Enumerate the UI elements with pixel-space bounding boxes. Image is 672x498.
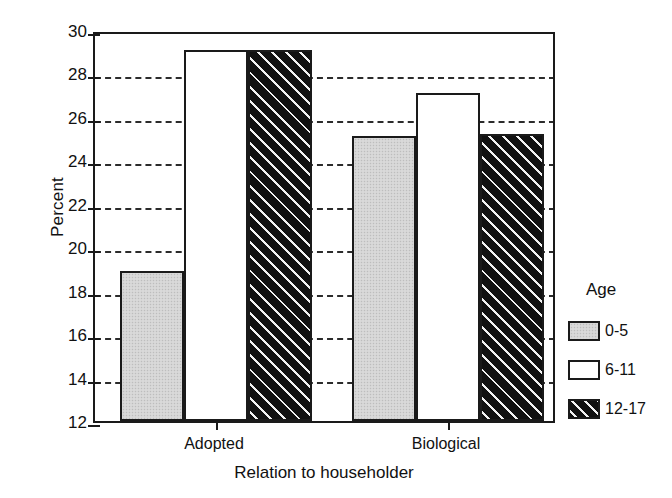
legend-label-0-5: 0-5 [605,322,628,340]
y-axis-tick-label: 18 [27,283,87,303]
x-axis-tick-label: Biological [412,435,480,453]
legend-item-0-5: 0-5 [568,320,628,342]
plot-area [93,32,555,423]
legend-swatch-0-5 [568,321,600,341]
y-axis-tick-label: 22 [27,196,87,216]
legend-title: Age [586,280,616,300]
bar-biological-0-5 [352,136,416,421]
gridline [95,121,555,123]
legend-label-6-11: 6-11 [605,361,636,379]
x-axis-tick-label: Adopted [184,435,244,453]
y-axis-tick [88,382,100,384]
x-axis-tick [216,419,218,430]
y-axis-tick [88,164,100,166]
y-axis-tick [88,338,100,340]
bar-biological-12-17 [480,134,544,421]
y-axis-tick [88,34,100,36]
bar-adopted-0-5 [120,271,184,421]
x-axis-title: Relation to householder [0,463,648,483]
bar-adopted-12-17 [248,50,312,421]
y-axis-tick-label: 28 [27,65,87,85]
legend-label-12-17: 12-17 [605,400,646,418]
y-axis-tick [88,121,100,123]
y-axis-tick [88,208,100,210]
y-axis-tick-label: 12 [27,413,87,433]
y-axis-tick-label: 24 [27,152,87,172]
x-axis-tick [448,419,450,430]
y-axis-tick-label: 26 [27,109,87,129]
y-axis-tick-label: 30 [27,22,87,42]
y-axis-tick [88,77,100,79]
legend-swatch-12-17 [568,399,600,419]
y-axis-tick [88,251,100,253]
y-axis-tick-label: 16 [27,326,87,346]
legend-item-12-17: 12-17 [568,398,646,420]
y-axis-tick-label: 14 [27,370,87,390]
y-axis-tick-label: 20 [27,239,87,259]
gridline [95,77,555,79]
y-axis-tick [88,425,100,427]
y-axis-tick [88,295,100,297]
bar-adopted-6-11 [184,50,248,421]
legend-item-6-11: 6-11 [568,359,636,381]
legend-swatch-6-11 [568,360,600,380]
bar-biological-6-11 [416,93,480,421]
bar-chart-figure: Percent 12141618202224262830 AdoptedBiol… [0,0,672,498]
